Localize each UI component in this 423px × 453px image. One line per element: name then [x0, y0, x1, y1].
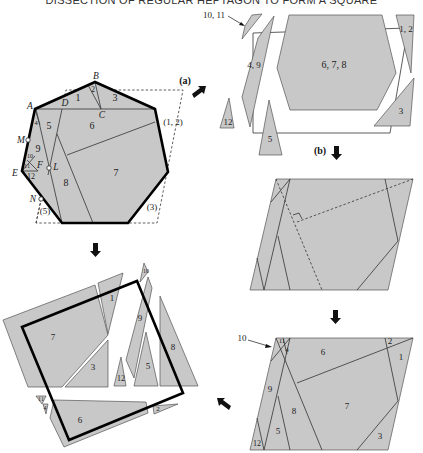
panel-c-parallelogram: 10 11 4 6 2 1 9 8 7 5 12 3 [238, 333, 414, 450]
panel-square: 10 1 7 9 8 3 12 5 11 4 6 2 [3, 263, 198, 447]
piece-label-10: 10 [27, 153, 33, 159]
piece-10-11 [242, 14, 262, 39]
heptagon-panel: B A C D M E F L N 1 2 3 4 5 6 7 8 9 10 1… [11, 71, 183, 223]
piece-label-6: 6 [90, 120, 95, 131]
piece-label-1: 1 [76, 92, 81, 103]
label-9: 9 [268, 384, 273, 394]
point-m [26, 138, 30, 142]
piece-label-9: 9 [36, 143, 41, 154]
label-1-2: 1, 2 [399, 24, 413, 34]
sq-label-10: 10 [143, 268, 149, 274]
label-4: 4 [285, 346, 289, 354]
piece-label-12: 12 [27, 172, 35, 181]
label-6: 6 [321, 347, 326, 357]
piece-label-7: 7 [114, 167, 119, 178]
point-l [47, 166, 51, 170]
label-5: 5 [276, 426, 281, 436]
sq-label-8: 8 [171, 342, 176, 352]
label-1: 1 [399, 352, 404, 362]
square-piece-6 [50, 400, 148, 447]
sq-label-11: 11 [38, 396, 44, 402]
sq-label-1: 1 [110, 293, 115, 303]
label-3: 3 [399, 106, 404, 116]
vertex-label-b: B [93, 71, 99, 81]
ghost-label-5: (5) [40, 206, 51, 216]
arrow-down-icon [331, 146, 342, 160]
label-4-9: 4, 9 [247, 60, 261, 70]
panel-a-pieces: 10, 11 4, 9 6, 7, 8 1, 2 3 12 5 [203, 10, 414, 155]
sq-label-12: 12 [117, 374, 125, 383]
point-n [39, 197, 43, 201]
sq-label-6: 6 [78, 415, 83, 425]
piece-label-5: 5 [47, 120, 52, 131]
step-b-label: (b) [314, 145, 326, 157]
ghost-label-1-2: (1, 2) [163, 117, 183, 127]
ghost-label-3: (3) [147, 202, 158, 212]
arrow-left-up-icon [217, 398, 231, 410]
piece-label-11: 11 [24, 163, 30, 169]
callout-arrowhead-10-icon [265, 344, 272, 348]
piece-label-3: 3 [113, 92, 118, 103]
arrow-down-icon-2 [330, 310, 341, 324]
label-7: 7 [345, 401, 350, 411]
label-12: 12 [253, 439, 261, 448]
panel-b-parallelogram [250, 179, 413, 290]
piece-5 [259, 100, 282, 155]
label-2: 2 [388, 336, 393, 346]
vertex-label-l: L [52, 162, 58, 172]
vertex-label-e: E [11, 168, 18, 178]
dissection-diagram: B A C D M E F L N 1 2 3 4 5 6 7 8 9 10 1… [0, 0, 423, 453]
callout-10: 10 [238, 333, 248, 343]
step-a-label: (a) [179, 75, 191, 87]
square-piece-8 [160, 296, 198, 386]
vertex-label-n: N [29, 194, 37, 204]
callout-10-11: 10, 11 [203, 10, 225, 20]
vertex-label-m: M [16, 135, 26, 145]
piece-label-2: 2 [91, 85, 95, 94]
sq-label-5: 5 [146, 361, 151, 371]
piece-label-4: 4 [34, 119, 38, 127]
label-8: 8 [292, 406, 297, 416]
sq-label-2: 2 [156, 405, 160, 413]
label-5: 5 [268, 134, 273, 144]
vertex-label-f: F [36, 160, 43, 170]
arrow-down-icon-3 [90, 243, 101, 257]
label-12: 12 [224, 117, 233, 127]
label-6-7-8: 6, 7, 8 [322, 59, 347, 70]
callout-line-10 [248, 340, 268, 346]
callout-arrowhead-icon [239, 22, 245, 26]
sq-label-4: 4 [44, 405, 47, 411]
vertex-label-c: C [99, 110, 106, 120]
label-3: 3 [378, 431, 383, 441]
piece-label-8: 8 [64, 177, 69, 188]
sq-label-9: 9 [138, 313, 143, 323]
vertex-label-d: D [61, 98, 69, 108]
arrow-right-up-icon [192, 86, 206, 98]
sq-label-7: 7 [51, 332, 56, 342]
vertex-label-a: A [26, 101, 33, 111]
sq-label-3: 3 [91, 362, 96, 372]
label-11: 11 [279, 337, 286, 345]
